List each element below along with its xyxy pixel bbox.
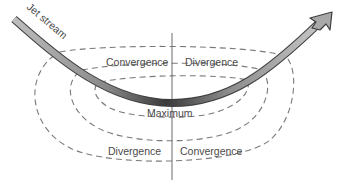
jet-stream-diagram: Jet stream Convergence Divergence Maximu…: [0, 0, 346, 195]
center-label: Maximum: [147, 107, 193, 119]
lower-left-label: Divergence: [108, 145, 161, 157]
upper-left-label: Convergence: [106, 56, 169, 68]
lower-right-label: Convergence: [180, 145, 243, 157]
arrow-head-icon: [310, 12, 332, 30]
upper-right-label: Divergence: [185, 56, 238, 68]
